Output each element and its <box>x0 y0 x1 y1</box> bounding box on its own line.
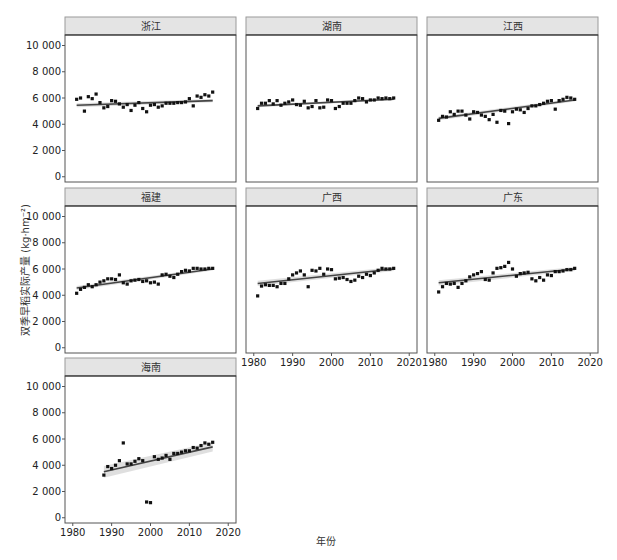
facet-strip-label: 江西 <box>503 21 523 32</box>
data-point <box>445 282 448 285</box>
data-point <box>83 286 86 289</box>
data-point <box>495 121 498 124</box>
data-point <box>176 101 179 104</box>
data-point <box>530 277 533 280</box>
data-point <box>268 99 271 102</box>
x-tick-label: 2000 <box>319 357 344 368</box>
y-tick-label: 8 000 <box>32 66 61 77</box>
data-point <box>203 267 206 270</box>
data-point <box>357 96 360 99</box>
x-tick-label: 1980 <box>241 357 266 368</box>
data-point <box>133 279 136 282</box>
x-tick-label: 2010 <box>358 357 383 368</box>
data-point <box>188 97 191 100</box>
x-tick-label: 2010 <box>177 527 202 538</box>
data-point <box>503 110 506 113</box>
y-tick-label: 8 000 <box>32 237 61 248</box>
data-point <box>546 273 549 276</box>
data-point <box>192 104 195 107</box>
data-point <box>322 106 325 109</box>
data-point <box>272 284 275 287</box>
data-point <box>342 102 345 105</box>
data-point <box>260 102 263 105</box>
data-point <box>110 99 113 102</box>
data-point <box>353 99 356 102</box>
data-point <box>157 458 160 461</box>
data-point <box>287 277 290 280</box>
data-point <box>196 447 199 450</box>
data-point <box>145 279 148 282</box>
data-point <box>488 118 491 121</box>
data-point <box>437 119 440 122</box>
data-point <box>511 110 514 113</box>
data-point <box>126 282 129 285</box>
y-tick-label: 8 000 <box>32 407 61 418</box>
data-point <box>106 277 109 280</box>
data-point <box>114 278 117 281</box>
facet-panel-4: 福建02 0004 0006 0008 00010 000 <box>26 188 236 353</box>
data-point <box>91 285 94 288</box>
data-point <box>530 104 533 107</box>
data-point <box>157 282 160 285</box>
data-point <box>468 117 471 120</box>
data-point <box>199 444 202 447</box>
facet-panel-7: 海南02 0004 0006 0008 00010 00019801990200… <box>26 358 241 538</box>
data-point <box>499 109 502 112</box>
y-tick-label: 0 <box>55 342 61 353</box>
data-point <box>180 451 183 454</box>
data-point <box>377 96 380 99</box>
data-point <box>365 100 368 103</box>
data-point <box>310 105 313 108</box>
data-point <box>338 277 341 280</box>
y-tick-label: 2 000 <box>32 145 61 156</box>
data-point <box>122 281 125 284</box>
data-point <box>176 273 179 276</box>
data-point <box>558 99 561 102</box>
data-point <box>519 108 522 111</box>
data-point <box>449 282 452 285</box>
x-tick-label: 2010 <box>539 357 564 368</box>
data-point <box>558 270 561 273</box>
y-tick-label: 0 <box>55 512 61 523</box>
data-point <box>476 272 479 275</box>
data-point <box>460 110 463 113</box>
facet-strip-label: 广西 <box>322 192 342 203</box>
data-point <box>164 102 167 105</box>
data-point <box>361 97 364 100</box>
data-point <box>118 459 121 462</box>
data-point <box>161 273 164 276</box>
data-point <box>180 270 183 273</box>
data-point <box>87 95 90 98</box>
data-point <box>538 276 541 279</box>
data-point <box>137 278 140 281</box>
data-point <box>480 270 483 273</box>
data-point <box>149 501 152 504</box>
data-point <box>554 108 557 111</box>
y-tick-label: 2 000 <box>32 316 61 327</box>
data-point <box>353 279 356 282</box>
data-point <box>275 285 278 288</box>
data-point <box>515 275 518 278</box>
data-point <box>303 273 306 276</box>
data-point <box>172 102 175 105</box>
y-tick-label: 10 000 <box>26 40 61 51</box>
data-point <box>507 261 510 264</box>
data-point <box>392 267 395 270</box>
data-point <box>283 282 286 285</box>
data-point <box>299 269 302 272</box>
data-point <box>388 267 391 270</box>
data-point <box>180 101 183 104</box>
data-point <box>538 103 541 106</box>
data-point <box>565 268 568 271</box>
data-point <box>98 101 101 104</box>
x-tick-label: 2020 <box>397 357 422 368</box>
facet-panel-2: 湖南 <box>246 17 417 182</box>
data-point <box>110 277 113 280</box>
data-point <box>184 449 187 452</box>
data-point <box>322 273 325 276</box>
data-point <box>94 92 97 95</box>
facet-strip-label: 浙江 <box>141 21 161 32</box>
data-point <box>326 267 329 270</box>
y-tick-label: 6 000 <box>32 434 61 445</box>
data-point <box>542 102 545 105</box>
